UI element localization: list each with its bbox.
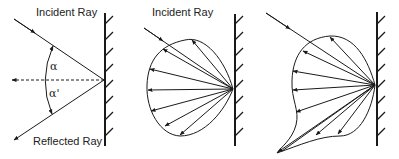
incident-ray-label-2: Incident Ray	[152, 6, 213, 18]
mirror-hatching	[377, 16, 385, 136]
panel-mixed	[266, 12, 385, 153]
incident-ray-label: Incident Ray	[36, 6, 97, 18]
scattered-rays	[278, 37, 375, 152]
scatter-envelope	[147, 39, 233, 136]
reflected-ray-label: Reflected Ray	[33, 135, 102, 147]
scatter-envelope	[277, 36, 375, 153]
mirror-hatching	[235, 16, 243, 136]
mirror-hatching	[105, 16, 113, 136]
panel-diffuse	[144, 14, 243, 146]
panel-specular	[12, 13, 113, 146]
angle-alpha-prime-label: α'	[49, 87, 59, 100]
angle-alpha-label: α	[50, 60, 57, 73]
scattered-rays	[148, 40, 233, 135]
